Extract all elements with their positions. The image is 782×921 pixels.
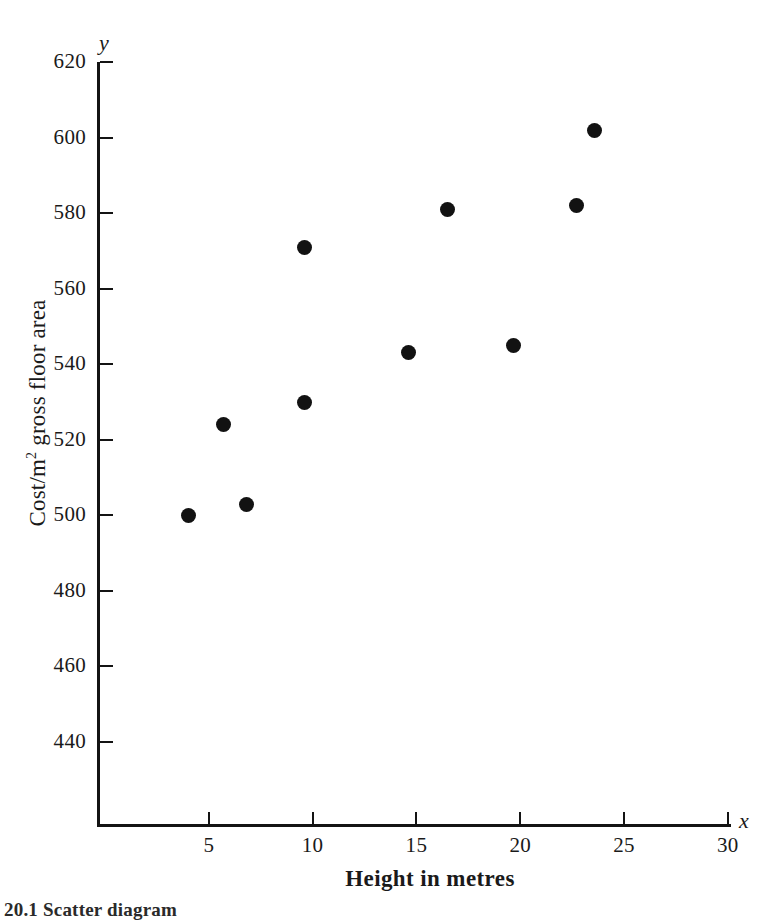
data-point	[506, 338, 521, 353]
data-point	[401, 345, 416, 360]
y-axis-title-suffix: gross floor area	[25, 299, 50, 451]
data-point	[569, 198, 584, 213]
x-tick-20	[519, 812, 521, 825]
x-tick-label-10: 10	[283, 834, 343, 856]
y-tick-label-620: 620	[32, 51, 86, 72]
x-tick-5	[208, 812, 210, 825]
y-tick-520	[100, 439, 113, 441]
x-axis-variable-label: x	[739, 808, 749, 834]
x-tick-label-15: 15	[386, 834, 446, 856]
y-tick-460	[100, 665, 113, 667]
x-axis-title: Height in metres	[0, 866, 782, 892]
x-tick-label-30: 30	[698, 834, 758, 856]
y-tick-label-440: 440	[32, 731, 86, 752]
y-tick-480	[100, 590, 113, 592]
data-point	[297, 395, 312, 410]
y-tick-500	[100, 514, 113, 516]
x-tick-30	[727, 812, 729, 825]
y-axis-line	[97, 62, 100, 827]
data-point	[297, 240, 312, 255]
data-point	[181, 508, 196, 523]
y-tick-label-600: 600	[32, 127, 86, 148]
x-tick-25	[623, 812, 625, 825]
x-tick-15	[415, 812, 417, 825]
x-tick-label-25: 25	[594, 834, 654, 856]
y-axis-title-prefix: Cost/m	[25, 459, 50, 527]
x-axis-line	[97, 824, 731, 827]
y-axis-title-superscript: 2	[24, 452, 39, 459]
data-point	[440, 202, 455, 217]
figure-caption: 20.1 Scatter diagram	[4, 899, 177, 921]
x-tick-label-20: 20	[490, 834, 550, 856]
y-tick-600	[100, 137, 113, 139]
x-tick-label-5: 5	[179, 834, 239, 856]
y-axis-variable-label: y	[99, 30, 109, 56]
y-tick-560	[100, 288, 113, 290]
x-tick-10	[312, 812, 314, 825]
y-tick-580	[100, 212, 113, 214]
y-tick-620	[100, 61, 113, 63]
data-point	[239, 497, 254, 512]
data-point	[587, 123, 602, 138]
y-axis-title: Cost/m2 gross floor area	[25, 203, 51, 623]
y-tick-540	[100, 363, 113, 365]
data-point	[216, 417, 231, 432]
y-tick-440	[100, 741, 113, 743]
y-tick-label-460: 460	[32, 655, 86, 676]
